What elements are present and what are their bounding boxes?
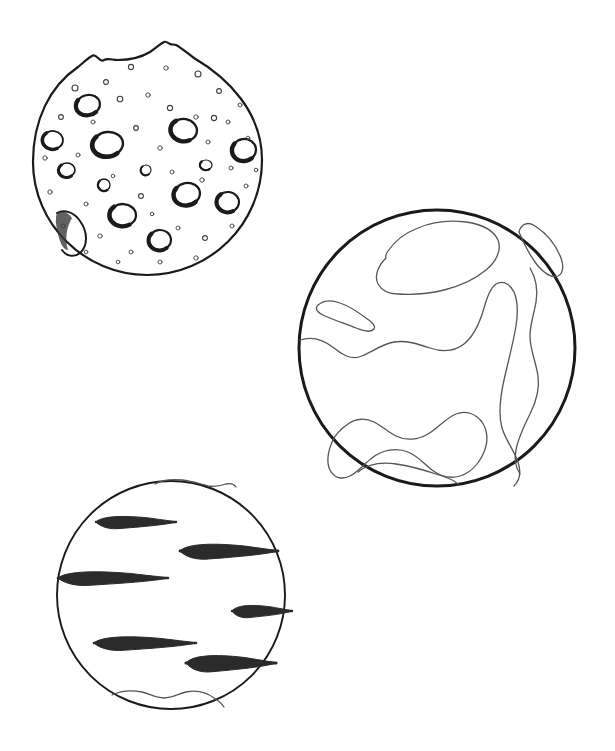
coloring-page-canvas: Planets Coloring Page: [0, 0, 615, 751]
planets-illustration: [0, 0, 615, 751]
